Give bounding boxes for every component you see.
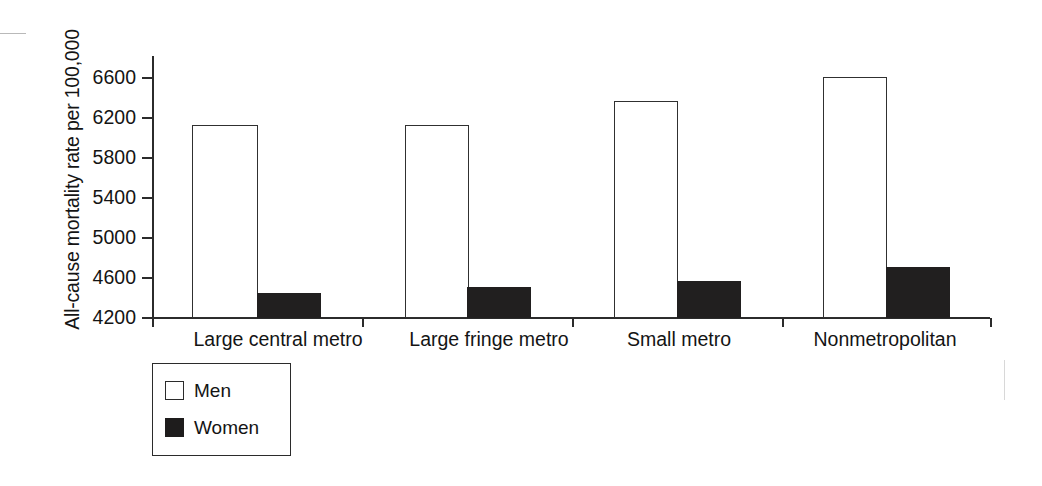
bar-men bbox=[614, 101, 678, 318]
scan-artifact-line-right bbox=[1004, 360, 1005, 400]
x-axis-category-label: Nonmetropolitan bbox=[735, 329, 1035, 350]
bar-men bbox=[405, 125, 469, 318]
y-axis-tick-label: 6200 bbox=[52, 108, 136, 128]
legend-label-men: Men bbox=[194, 381, 231, 400]
legend-item-women: Women bbox=[165, 415, 259, 439]
bar-chart-figure: All-cause mortality rate per 100,000 420… bbox=[0, 0, 1042, 486]
legend-swatch-women-icon bbox=[165, 418, 184, 437]
y-axis-tick bbox=[142, 157, 153, 159]
y-axis-tick-label-text: 4200 bbox=[52, 308, 136, 328]
x-axis-tick bbox=[782, 318, 784, 327]
y-axis-tick-label-text: 5000 bbox=[52, 228, 136, 248]
y-axis-tick-label: 4200 bbox=[52, 308, 136, 328]
bar-women bbox=[467, 287, 531, 318]
y-axis-tick-label: 5400 bbox=[52, 188, 136, 208]
y-axis-tick-label-text: 6200 bbox=[52, 108, 136, 128]
y-axis-line bbox=[152, 56, 154, 320]
scan-artifact-line bbox=[0, 33, 26, 34]
y-axis-tick bbox=[142, 277, 153, 279]
bar-women bbox=[886, 267, 950, 318]
x-axis-tick bbox=[362, 318, 364, 327]
bar-men bbox=[192, 125, 258, 318]
x-axis-tick bbox=[990, 318, 992, 327]
y-axis-tick-label-text: 6600 bbox=[52, 68, 136, 88]
y-axis-tick-label: 4600 bbox=[52, 268, 136, 288]
x-axis-tick bbox=[152, 318, 154, 327]
y-axis-tick-label-text: 5400 bbox=[52, 188, 136, 208]
chart-legend: Men Women bbox=[152, 363, 291, 456]
y-axis-tick-label-text: 5800 bbox=[52, 148, 136, 168]
bar-women bbox=[677, 281, 741, 318]
y-axis-tick-label: 5800 bbox=[52, 148, 136, 168]
y-axis-tick bbox=[142, 117, 153, 119]
y-axis-tick-label-text: 4600 bbox=[52, 268, 136, 288]
legend-label-women: Women bbox=[194, 418, 259, 437]
bar-women bbox=[257, 293, 321, 318]
y-axis-tick-label: 6600 bbox=[52, 68, 136, 88]
legend-item-men: Men bbox=[165, 378, 231, 402]
legend-swatch-men-icon bbox=[165, 381, 184, 400]
y-axis-tick-label: 5000 bbox=[52, 228, 136, 248]
bar-men bbox=[823, 77, 887, 318]
y-axis-tick bbox=[142, 237, 153, 239]
y-axis-tick bbox=[142, 197, 153, 199]
x-axis-tick bbox=[572, 318, 574, 327]
y-axis-tick bbox=[142, 77, 153, 79]
